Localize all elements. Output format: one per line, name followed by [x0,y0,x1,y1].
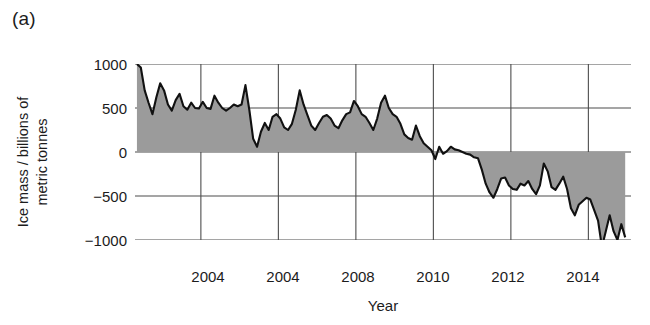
x-tick-2: 2004 [248,268,318,285]
plot-area [135,64,631,240]
panel-label: (a) [12,8,36,30]
y-axis-tick-labels: 1000 500 0 −500 −1000 [55,0,127,325]
x-axis-label: Year [135,297,631,314]
y-tick-0: 0 [57,144,127,161]
x-tick-3: 2008 [323,268,393,285]
y-tick-neg1000: −1000 [57,232,127,249]
x-tick-1: 2004 [173,268,243,285]
x-tick-4: 2010 [398,268,468,285]
area-fill [137,64,625,240]
ice-mass-area-chart [135,64,631,240]
y-tick-neg500: −500 [57,188,127,205]
figure-panel-a: (a) Ice mass / billions of metric tonnes… [0,0,650,325]
y-tick-500: 500 [57,100,127,117]
x-tick-5: 2012 [473,268,543,285]
y-tick-1000: 1000 [57,56,127,73]
x-tick-6: 2014 [548,268,618,285]
y-axis-label: Ice mass / billions of metric tonnes [14,42,52,282]
